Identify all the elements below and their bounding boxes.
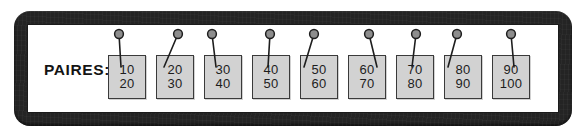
pinned-card[interactable]: 3040 [204,27,250,109]
card-number-bottom: 60 [312,77,327,91]
card-number-bottom: 100 [500,77,522,91]
card-number-top: 10 [120,63,135,77]
card-number-bottom: 90 [456,77,471,91]
pinned-card[interactable]: 6070 [348,27,394,109]
paires-label: PAIRES: [44,61,110,79]
card-number-top: 30 [216,63,231,77]
pinned-card[interactable]: 8090 [444,27,490,109]
card-number-bottom: 70 [360,77,375,91]
card-number-bottom: 30 [168,77,183,91]
card-body[interactable]: 7080 [396,55,434,99]
pinned-card[interactable]: 2030 [156,27,202,109]
pinned-card[interactable]: 90100 [492,27,538,109]
card-number-top: 50 [312,63,327,77]
device-frame: PAIRES: 10202030304040505060607070808090… [14,11,572,126]
card-body[interactable]: 90100 [492,55,530,99]
card-number-top: 60 [360,63,375,77]
card-number-bottom: 50 [264,77,279,91]
pinned-card[interactable]: 1020 [108,27,154,109]
pinned-card[interactable]: 7080 [396,27,442,109]
card-number-top: 40 [264,63,279,77]
card-number-top: 70 [408,63,423,77]
pinned-card[interactable]: 5060 [300,27,346,109]
card-number-bottom: 20 [120,77,135,91]
card-body[interactable]: 6070 [348,55,386,99]
card-number-top: 90 [504,63,519,77]
card-number-bottom: 40 [216,77,231,91]
card-number-top: 20 [168,63,183,77]
card-body[interactable]: 4050 [252,55,290,99]
card-body[interactable]: 8090 [444,55,482,99]
pairs-panel-scene: PAIRES: 10202030304040505060607070808090… [0,0,586,133]
card-body[interactable]: 2030 [156,55,194,99]
card-number-bottom: 80 [408,77,423,91]
card-body[interactable]: 3040 [204,55,242,99]
card-row: 1020203030404050506060707080809090100 [108,27,554,112]
pinned-card[interactable]: 4050 [252,27,298,109]
card-number-top: 80 [456,63,471,77]
card-body[interactable]: 1020 [108,55,146,99]
inner-white-panel: PAIRES: 10202030304040505060607070808090… [27,24,559,113]
card-body[interactable]: 5060 [300,55,338,99]
